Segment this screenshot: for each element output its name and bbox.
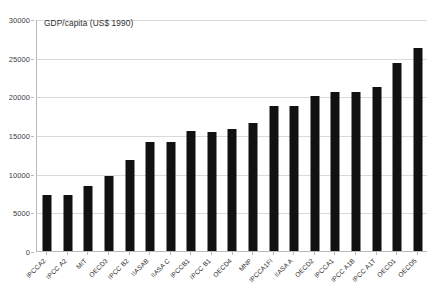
- y-axis-tick-label: 30000: [9, 16, 30, 25]
- bar: [393, 63, 402, 251]
- x-axis-tick-label: OECD4: [211, 257, 232, 278]
- y-axis-tick-mark: [31, 213, 34, 214]
- x-axis-tick-mark: [211, 252, 212, 255]
- x-axis-tick-label: IPCC B1: [188, 257, 212, 281]
- chart-title: GDP/capita (US$ 1990): [44, 18, 133, 28]
- x-axis-tick-mark: [87, 252, 88, 255]
- y-axis: 050001000015000200002500030000: [0, 20, 34, 252]
- x-axis-tick-mark: [334, 252, 335, 255]
- bar: [372, 87, 381, 251]
- bar-slot: [181, 20, 202, 251]
- y-axis-tick-label: 5000: [13, 209, 30, 218]
- bar: [207, 132, 216, 251]
- bar-slot: [58, 20, 79, 251]
- y-axis-tick-mark: [31, 97, 34, 98]
- bar-slot: [243, 20, 264, 251]
- bar: [310, 96, 319, 251]
- bar: [187, 131, 196, 251]
- x-axis-tick-label: IPCC A2: [44, 257, 67, 280]
- y-axis-tick-mark: [31, 252, 34, 253]
- bar-slot: [325, 20, 346, 251]
- x-axis-tick-label: MIT: [75, 257, 88, 270]
- y-axis-tick-label: 10000: [9, 170, 30, 179]
- x-axis-tick-mark: [108, 252, 109, 255]
- bar-slot: [160, 20, 181, 251]
- bar-slot: [140, 20, 161, 251]
- bar-slot: [222, 20, 243, 251]
- x-axis-tick-mark: [46, 252, 47, 255]
- bar: [351, 92, 360, 251]
- bar: [331, 92, 340, 251]
- x-axis-tick-mark: [190, 252, 191, 255]
- bar-slot: [99, 20, 120, 251]
- bar: [84, 186, 93, 251]
- bar-slot: [366, 20, 387, 251]
- bar: [413, 48, 422, 251]
- bar-slot: [346, 20, 367, 251]
- x-axis-tick-label: OECD1: [376, 257, 397, 278]
- bar-slot: [407, 20, 428, 251]
- x-axis-tick-label: IIASAB: [130, 257, 150, 277]
- x-axis: IPCCA2IPCC A2MITOECD3IPCC B2IIASABIIASA …: [36, 252, 427, 300]
- bar-slot: [119, 20, 140, 251]
- x-axis-tick-label: MNP: [238, 257, 254, 273]
- x-axis-tick-mark: [232, 252, 233, 255]
- bar: [105, 176, 114, 251]
- bar: [290, 106, 299, 251]
- bar-slot: [37, 20, 58, 251]
- bar-slot: [284, 20, 305, 251]
- bar-series: [37, 20, 427, 251]
- x-axis-tick-label: OECD2: [293, 257, 314, 278]
- bar: [63, 195, 72, 251]
- x-axis-tick-mark: [417, 252, 418, 255]
- y-axis-tick-mark: [31, 175, 34, 176]
- bar: [43, 195, 52, 251]
- x-axis-tick-label: IPCC B2: [106, 257, 130, 281]
- bar: [269, 106, 278, 251]
- plot-area: [36, 20, 427, 252]
- bar: [146, 142, 155, 251]
- gdp-per-capita-bar-chart: 050001000015000200002500030000 GDP/capit…: [0, 0, 433, 300]
- bar-slot: [263, 20, 284, 251]
- x-axis-tick-mark: [355, 252, 356, 255]
- x-axis-tick-label: OECD5: [396, 257, 417, 278]
- y-axis-tick-label: 15000: [9, 132, 30, 141]
- y-axis-tick-mark: [31, 59, 34, 60]
- x-axis-tick-mark: [149, 252, 150, 255]
- x-axis-tick-mark: [376, 252, 377, 255]
- bar-slot: [387, 20, 408, 251]
- x-axis-tick-mark: [273, 252, 274, 255]
- y-axis-tick-mark: [31, 20, 34, 21]
- x-axis-tick-label: IIASA A: [273, 257, 294, 278]
- bar: [228, 129, 237, 251]
- bar-slot: [202, 20, 223, 251]
- bar: [249, 123, 258, 251]
- x-axis-tick-label: IIASA C: [149, 257, 171, 279]
- x-axis-tick-mark: [252, 252, 253, 255]
- y-axis-tick-label: 20000: [9, 93, 30, 102]
- y-axis-tick-label: 25000: [9, 54, 30, 63]
- x-axis-tick-mark: [396, 252, 397, 255]
- x-axis-tick-mark: [293, 252, 294, 255]
- bar-slot: [78, 20, 99, 251]
- x-axis-tick-mark: [314, 252, 315, 255]
- y-axis-tick-mark: [31, 136, 34, 137]
- bar-slot: [305, 20, 326, 251]
- x-axis-tick-mark: [170, 252, 171, 255]
- y-axis-tick-label: 0: [26, 248, 30, 257]
- x-axis-tick-label: IPCCA2: [25, 257, 47, 279]
- bar: [166, 142, 175, 251]
- bar: [125, 160, 134, 251]
- x-axis-tick-mark: [67, 252, 68, 255]
- x-axis-tick-mark: [129, 252, 130, 255]
